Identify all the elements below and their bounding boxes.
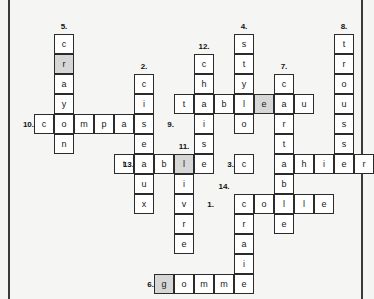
clue-number: 11.	[174, 142, 194, 152]
clue-number: 2.	[134, 62, 154, 72]
crossword-cell[interactable]: h	[194, 74, 214, 94]
crossword-cell[interactable]: s	[194, 134, 214, 154]
crossword-cell[interactable]: r	[54, 54, 74, 74]
crossword-cell[interactable]: m	[194, 274, 214, 294]
clue-number: 5.	[54, 22, 74, 32]
crossword-cell[interactable]: e	[174, 234, 194, 254]
crossword-cell[interactable]: i	[174, 174, 194, 194]
crossword-cell[interactable]: i	[314, 154, 334, 174]
crossword-cell[interactable]: a	[194, 94, 214, 114]
crossword-cell[interactable]: c	[234, 194, 254, 214]
crossword-cell[interactable]: s	[334, 134, 354, 154]
crossword-cell[interactable]: m	[74, 114, 94, 134]
crossword-cell[interactable]: u	[334, 94, 354, 114]
crossword-cell[interactable]: t	[334, 34, 354, 54]
clue-number: 6.	[132, 280, 154, 290]
crossword-cell[interactable]: l	[274, 194, 294, 214]
crossword-cell[interactable]: n	[54, 134, 74, 154]
crossword-cell[interactable]: l	[294, 194, 314, 214]
crossword-cell[interactable]: r	[274, 114, 294, 134]
clue-number: 12.	[194, 42, 214, 52]
crossword-cell[interactable]: p	[94, 114, 114, 134]
crossword-cell[interactable]: e	[334, 154, 354, 174]
clue-number: 8.	[334, 22, 354, 32]
crossword-cell[interactable]: m	[214, 274, 234, 294]
crossword-cell[interactable]: h	[294, 154, 314, 174]
crossword-cell[interactable]: c	[234, 154, 254, 174]
crossword-cell[interactable]: r	[234, 214, 254, 234]
clue-number: 4.	[234, 22, 254, 32]
crossword-cell[interactable]: a	[234, 234, 254, 254]
clue-number: 1.	[192, 200, 214, 210]
crossword-cell[interactable]: a	[114, 114, 134, 134]
crossword-cell[interactable]: y	[234, 74, 254, 94]
crossword-cell[interactable]: r	[174, 214, 194, 234]
crossword-cell[interactable]: u	[134, 174, 154, 194]
clue-number: 9.	[152, 120, 174, 130]
crossword-cell[interactable]: a	[274, 154, 294, 174]
crossword-cell[interactable]: c	[134, 74, 154, 94]
crossword-cell[interactable]: o	[234, 114, 254, 134]
clue-number: 3.	[212, 160, 234, 170]
crossword-cell[interactable]: g	[154, 274, 174, 294]
crossword-cell[interactable]: c	[194, 54, 214, 74]
crossword-cell[interactable]: s	[334, 114, 354, 134]
crossword-cell[interactable]: l	[174, 154, 194, 174]
crossword-cell[interactable]: e	[194, 154, 214, 174]
clue-number: 13.	[112, 160, 134, 170]
crossword-cell[interactable]: a	[274, 94, 294, 114]
crossword-cell[interactable]: o	[174, 274, 194, 294]
crossword-cell[interactable]: a	[134, 154, 154, 174]
crossword-cell[interactable]: a	[54, 74, 74, 94]
crossword-cell[interactable]: b	[274, 174, 294, 194]
crossword-cell[interactable]: e	[254, 94, 274, 114]
crossword-cell[interactable]: b	[214, 94, 234, 114]
clue-number: 7.	[274, 62, 294, 72]
crossword-cell[interactable]: l	[234, 94, 254, 114]
crossword-cell[interactable]: e	[134, 134, 154, 154]
crossword-cell[interactable]: c	[274, 74, 294, 94]
crossword-cell[interactable]: e	[274, 214, 294, 234]
crossword-cell[interactable]: i	[194, 114, 214, 134]
crossword-cell[interactable]: o	[54, 114, 74, 134]
crossword-cell[interactable]: i	[234, 254, 254, 274]
clue-number: 14.	[214, 182, 234, 192]
crossword-cell[interactable]: u	[294, 94, 314, 114]
crossword-cell[interactable]: c	[34, 114, 54, 134]
crossword-cell[interactable]: i	[134, 94, 154, 114]
crossword-cell[interactable]: c	[54, 34, 74, 54]
crossword-cell[interactable]: t	[274, 134, 294, 154]
crossword-cell[interactable]: v	[174, 194, 194, 214]
clue-number: 10.	[12, 120, 34, 130]
crossword-cell[interactable]: e	[234, 274, 254, 294]
crossword-cell[interactable]: o	[254, 194, 274, 214]
crossword-cell[interactable]: t	[174, 94, 194, 114]
crossword-cell[interactable]: e	[314, 194, 334, 214]
crossword-cell[interactable]: b	[154, 154, 174, 174]
crossword-cell[interactable]: x	[134, 194, 154, 214]
crossword-cell[interactable]: o	[334, 74, 354, 94]
crossword-cell[interactable]: r	[354, 154, 374, 174]
crossword-cell[interactable]: s	[134, 114, 154, 134]
crossword-cell[interactable]: t	[234, 54, 254, 74]
crossword-cell[interactable]: s	[234, 34, 254, 54]
crossword-cell[interactable]: y	[54, 94, 74, 114]
crossword-cell[interactable]: r	[334, 54, 354, 74]
